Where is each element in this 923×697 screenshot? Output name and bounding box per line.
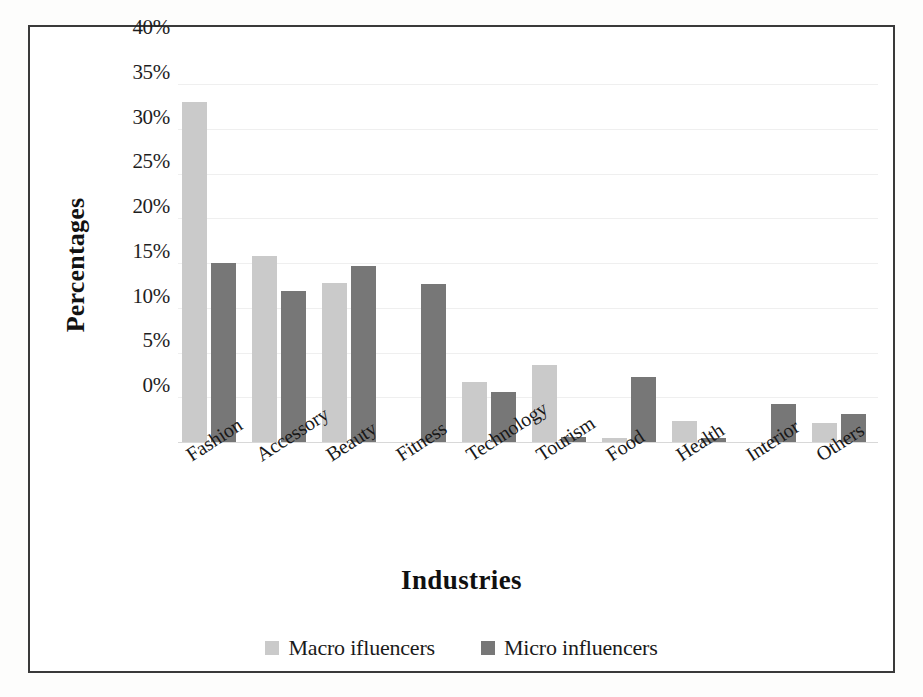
bar-micro: [351, 266, 376, 442]
bar-macro: [252, 256, 277, 442]
bar-group: [388, 84, 458, 442]
legend-label: Micro influencers: [504, 635, 658, 661]
y-axis-tick-label: 15%: [132, 238, 170, 263]
bar-group: [528, 84, 598, 442]
y-axis-tick-label: 30%: [132, 104, 170, 129]
page-background: Percentages 0%5%10%15%20%25%30%35%40% Fa…: [0, 0, 923, 697]
legend-swatch-icon: [265, 641, 279, 655]
y-axis-tick-label: 40%: [132, 15, 170, 40]
y-axis-tick-label: 10%: [132, 283, 170, 308]
bar-group: [598, 84, 668, 442]
bar-group: [808, 84, 878, 442]
legend-label: Macro ifluencers: [288, 635, 434, 661]
x-axis-title: Industries: [30, 565, 893, 596]
bar-group: [318, 84, 388, 442]
bar-group: [458, 84, 528, 442]
bar-group: [668, 84, 738, 442]
y-axis-tick-label: 35%: [132, 59, 170, 84]
y-axis-tick-labels: 0%5%10%15%20%25%30%35%40%: [108, 27, 170, 385]
bar-micro: [421, 284, 446, 442]
y-axis-tick-label: 5%: [143, 328, 170, 353]
plot-area: [178, 84, 878, 442]
bar-macro: [182, 102, 207, 442]
y-axis-tick-label: 25%: [132, 149, 170, 174]
bar-group: [738, 84, 808, 442]
legend-swatch-icon: [481, 641, 495, 655]
legend-item[interactable]: Macro ifluencers: [265, 635, 434, 661]
bar-group: [178, 84, 248, 442]
y-axis-tick-label: 20%: [132, 194, 170, 219]
chart-frame: Percentages 0%5%10%15%20%25%30%35%40% Fa…: [28, 25, 895, 673]
chart-legend: Macro ifluencersMicro influencers: [30, 635, 893, 661]
bar-group: [248, 84, 318, 442]
y-axis-title: Percentages: [61, 198, 91, 333]
legend-item[interactable]: Micro influencers: [481, 635, 658, 661]
y-axis-tick-label: 0%: [143, 373, 170, 398]
x-axis-tick-labels: FashionAccessoryBeautyFitnessTechnologyT…: [178, 447, 878, 527]
